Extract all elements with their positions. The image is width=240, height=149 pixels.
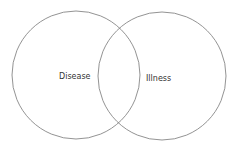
venn-diagram: Disease Illness: [0, 0, 240, 149]
disease-label: Disease: [59, 72, 91, 81]
illness-label: Illness: [146, 74, 171, 83]
